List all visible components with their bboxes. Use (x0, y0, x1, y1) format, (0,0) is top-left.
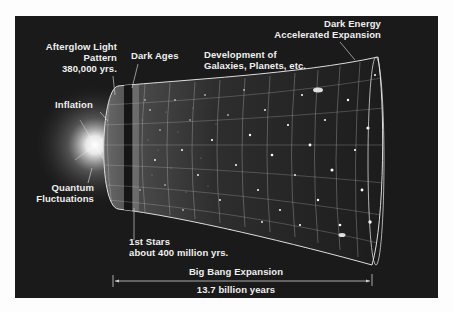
label-duration: 13.7 billion years (186, 284, 286, 295)
label-quantum-fluctuations: Quantum Fluctuations (36, 182, 94, 204)
label-dark-energy: Dark Energy Accelerated Expansion (274, 18, 381, 40)
label-dark-ages: Dark Ages (131, 50, 179, 61)
label-big-bang-expansion: Big Bang Expansion (186, 266, 286, 277)
label-first-stars: 1st Stars about 400 million yrs. (129, 236, 228, 258)
label-development: Development of Galaxies, Planets, etc. (204, 49, 306, 71)
label-afterglow: Afterglow Light Pattern 380,000 yrs. (46, 41, 117, 74)
label-inflation: Inflation (55, 99, 93, 110)
dark-energy-leader (340, 42, 355, 60)
